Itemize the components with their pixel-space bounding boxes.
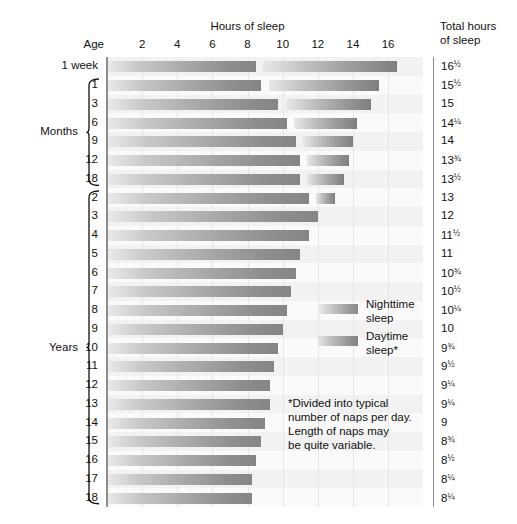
legend-swatch-daytime-icon: [318, 336, 358, 346]
total-hours-fraction: ½: [454, 172, 461, 182]
total-hours-12: 9¼: [441, 378, 513, 391]
total-hours-fraction: ¾: [454, 266, 461, 276]
legend-label-nighttime-line1: Nighttime: [366, 298, 436, 312]
legend-label-daytime: Daytime sleep*: [366, 330, 436, 357]
column-header-total-hours-line1: Total hours: [440, 20, 516, 34]
bar-daytime-1: [269, 80, 380, 91]
sleep-chart: Hours of sleep Age Total hours of sleep …: [0, 0, 517, 524]
bar-nighttime-11: [107, 361, 274, 372]
total-hours-17: 8¼: [441, 472, 513, 485]
age-label-1-week: 1 week: [42, 59, 98, 71]
total-hours-9: 14: [441, 134, 513, 146]
bar-nighttime-1-week: [107, 61, 256, 72]
bar-nighttime-18: [107, 493, 252, 504]
bar-daytime-6: [294, 118, 357, 129]
total-hours-fraction: ¼: [447, 472, 454, 482]
y-axis-line: [106, 57, 108, 507]
total-hours-11: 9½: [441, 359, 513, 372]
legend-label-daytime-line2: sleep*: [366, 344, 436, 358]
bar-nighttime-7: [107, 286, 291, 297]
brace-years-glyph: [86, 190, 100, 505]
brace-months-label: Months: [20, 125, 78, 137]
total-hours-fraction: ¼: [447, 397, 454, 407]
bar-nighttime-3: [107, 211, 318, 222]
bar-nighttime-13: [107, 399, 270, 410]
total-hours-fraction: ½: [447, 359, 454, 369]
total-hours-18: 13½: [441, 172, 513, 185]
bar-nighttime-12: [107, 155, 300, 166]
column-header-total-hours-line2: of sleep: [440, 34, 516, 48]
total-hours-12: 13¾: [441, 153, 513, 166]
footnote-line-3: Length of naps may: [288, 424, 438, 438]
bar-nighttime-3: [107, 99, 278, 110]
x-axis-tick-2: 2: [139, 38, 145, 50]
bar-nighttime-4: [107, 230, 309, 241]
footnote-line-1: *Divided into typical: [288, 396, 438, 410]
bar-nighttime-15: [107, 436, 261, 447]
legend-swatch-nighttime-icon: [318, 304, 358, 314]
column-header-total-hours: Total hours of sleep: [440, 20, 516, 47]
total-hours-6: 14¼: [441, 116, 513, 129]
total-hours-fraction: ¾: [454, 153, 461, 163]
total-hours-fraction: ½: [454, 59, 461, 69]
x-axis-tick-10: 10: [276, 38, 289, 50]
bar-nighttime-17: [107, 474, 252, 485]
total-hours-13: 9¼: [441, 397, 513, 410]
legend-label-nighttime: Nighttime sleep: [366, 298, 436, 325]
bar-nighttime-9: [107, 136, 296, 147]
total-hours-fraction: ½: [454, 284, 461, 294]
total-hours-fraction: ¾: [447, 341, 454, 351]
bar-nighttime-14: [107, 418, 265, 429]
footnote: *Divided into typical number of naps per…: [288, 396, 438, 452]
total-hours-fraction: ½: [447, 453, 454, 463]
bar-nighttime-5: [107, 249, 300, 260]
total-hours-1: 15½: [441, 78, 513, 91]
bar-nighttime-16: [107, 455, 256, 466]
total-hours-fraction: ¼: [447, 378, 454, 388]
total-hours-10: 9¾: [441, 341, 513, 354]
bar-nighttime-1: [107, 80, 261, 91]
total-hours-fraction: ¼: [454, 116, 461, 126]
bar-daytime-9: [303, 136, 353, 147]
brace-years-label: Years: [20, 341, 78, 353]
total-hours-6: 10¾: [441, 266, 513, 279]
total-hours-1-week: 16½: [441, 59, 513, 72]
brace-months-glyph: [86, 78, 100, 187]
x-axis-tick-16: 16: [382, 38, 395, 50]
bar-daytime-2: [316, 193, 335, 204]
total-hours-fraction: ½: [453, 228, 460, 238]
footnote-line-2: number of naps per day.: [288, 410, 438, 424]
x-axis-tick-14: 14: [347, 38, 360, 50]
legend-label-daytime-line1: Daytime: [366, 330, 436, 344]
bar-daytime-3: [286, 99, 370, 110]
brace-months: [86, 78, 100, 187]
legend-item-daytime: Daytime sleep*: [318, 334, 422, 366]
bar-nighttime-6: [107, 268, 296, 279]
bar-nighttime-6: [107, 118, 287, 129]
total-hours-9: 10: [441, 322, 513, 334]
legend-label-nighttime-line2: sleep: [366, 312, 436, 326]
total-hours-4: 11½: [441, 228, 513, 241]
axis-title-age: Age: [62, 38, 104, 50]
chart-title-hours-of-sleep: Hours of sleep: [107, 20, 388, 32]
total-hours-8: 10¼: [441, 303, 513, 316]
total-hours-3: 12: [441, 209, 513, 221]
bar-nighttime-8: [107, 305, 287, 316]
x-axis-tick-4: 4: [174, 38, 180, 50]
x-axis-tick-6: 6: [209, 38, 215, 50]
total-hours-fraction: ½: [454, 78, 461, 88]
footnote-line-4: be quite variable.: [288, 438, 438, 452]
x-axis-tick-12: 12: [311, 38, 324, 50]
bar-nighttime-12: [107, 380, 270, 391]
bar-daytime-12: [307, 155, 348, 166]
bar-daytime-1-week: [263, 61, 397, 72]
total-hours-18: 8¼: [441, 491, 513, 504]
total-hours-fraction: ¼: [447, 491, 454, 501]
total-hours-15: 8¾: [441, 434, 513, 447]
total-hours-5: 11: [441, 247, 513, 259]
total-hours-fraction: ¾: [447, 434, 454, 444]
bar-nighttime-2: [107, 193, 309, 204]
total-hours-16: 8½: [441, 453, 513, 466]
total-hours-fraction: ¼: [454, 303, 461, 313]
total-hours-7: 10½: [441, 284, 513, 297]
